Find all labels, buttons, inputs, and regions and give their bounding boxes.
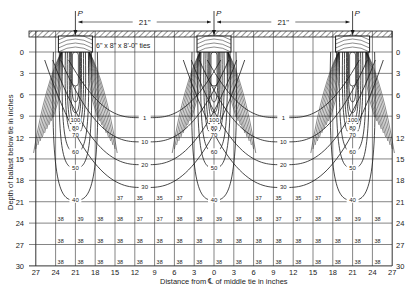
y-tick-label-right: 9 <box>396 112 400 121</box>
stress-line <box>38 52 61 145</box>
spacing-label: 21" <box>277 18 289 27</box>
x-tick-label: 12 <box>289 268 297 277</box>
x-tick-label: 18 <box>91 268 99 277</box>
contour-label: 30 <box>280 184 287 190</box>
pressure-value: 38 <box>275 259 281 265</box>
pressure-value: 38 <box>137 259 143 265</box>
pressure-value: 35 <box>295 195 301 201</box>
stress-line <box>177 52 200 145</box>
contour-label: 20 <box>141 162 148 168</box>
stress-line <box>367 52 393 149</box>
x-tick-label: 3 <box>232 268 236 277</box>
pressure-value: 37 <box>157 216 163 222</box>
y-tick-label-left: 3 <box>20 69 24 78</box>
pressure-value: 38 <box>176 216 182 222</box>
load-label: P <box>77 9 83 18</box>
stress-line <box>36 52 62 149</box>
load-label: P <box>216 9 222 18</box>
pressure-value: 38 <box>335 216 341 222</box>
x-tick-label: 24 <box>51 268 59 277</box>
x-tick-label: 15 <box>309 268 317 277</box>
pressure-value: 38 <box>196 259 202 265</box>
pressure-value: 38 <box>117 216 123 222</box>
contour-label: 30 <box>141 184 148 190</box>
pressure-value: 37 <box>117 195 123 201</box>
x-tick-label: 21 <box>71 268 79 277</box>
ballast-pressure-diagram: 1008070605040100807060504010080706050401… <box>0 0 420 290</box>
y-tick-label-right: 3 <box>396 69 400 78</box>
y-tick-label-left: 6 <box>20 91 24 100</box>
stress-line <box>228 52 251 145</box>
contour-label: 60 <box>211 149 218 155</box>
y-tick-label-right: 12 <box>396 134 404 143</box>
dimension-arrow-icon <box>207 21 211 24</box>
pressure-value: 37 <box>256 195 262 201</box>
contour-label: 60 <box>349 149 356 155</box>
pressure-value: 38 <box>295 259 301 265</box>
stress-line <box>315 52 338 145</box>
load-label: P <box>355 9 361 18</box>
y-tick-label-left: 24 <box>16 219 24 228</box>
y-tick-label-left: 0 <box>20 48 24 57</box>
pressure-value: 38 <box>355 259 361 265</box>
contour-label: 50 <box>72 165 79 171</box>
dimension-arrow-icon <box>346 21 350 24</box>
x-tick-label: 21 <box>348 268 356 277</box>
pressure-value: 38 <box>196 238 202 244</box>
pressure-value: 38 <box>355 238 361 244</box>
y-tick-label-left: 30 <box>16 262 24 271</box>
pressure-value: 38 <box>374 238 380 244</box>
pressure-value: 38 <box>97 216 103 222</box>
x-tick-label: 6 <box>252 268 256 277</box>
y-tick-label-left: 15 <box>16 155 24 164</box>
y-tick-label-left: 27 <box>16 241 24 250</box>
pressure-value: 38 <box>315 238 321 244</box>
pressure-value: 39 <box>355 216 361 222</box>
pressure-value: 38 <box>58 259 64 265</box>
pressure-value: 38 <box>256 259 262 265</box>
contour-label: 60 <box>72 149 79 155</box>
pressure-value: 38 <box>256 238 262 244</box>
x-tick-label: 27 <box>32 268 40 277</box>
pressure-values: 1008070605040100807060504010080706050401… <box>58 114 381 265</box>
dimension-arrow-icon <box>78 21 82 24</box>
contour-label: 40 <box>72 197 79 203</box>
contour-label: 80 <box>72 125 79 131</box>
pressure-value: 38 <box>117 259 123 265</box>
contour-label: 70 <box>72 132 79 138</box>
pressure-value: 38 <box>374 259 380 265</box>
y-tick-label-right: 6 <box>396 91 400 100</box>
x-tick-label: 12 <box>131 268 139 277</box>
pressure-value: 39 <box>216 216 222 222</box>
dimension-arrow-icon <box>217 21 221 24</box>
pressure-value: 37 <box>275 216 281 222</box>
pressure-value: 38 <box>256 216 262 222</box>
pressure-value: 38 <box>176 238 182 244</box>
contour-label: 100 <box>70 117 81 123</box>
y-tick-label-right: 30 <box>396 262 404 271</box>
pressure-value: 38 <box>58 238 64 244</box>
x-tick-label: 18 <box>329 268 337 277</box>
pressure-value: 35 <box>275 195 281 201</box>
y-tick-label-left: 18 <box>16 176 24 185</box>
pressure-value: 38 <box>176 259 182 265</box>
pressure-value: 38 <box>374 216 380 222</box>
spacing-label: 21" <box>139 18 151 27</box>
x-tick-label: 6 <box>172 268 176 277</box>
pressure-value: 38 <box>236 216 242 222</box>
contour-label: 100 <box>348 117 359 123</box>
pressure-value: 37 <box>315 195 321 201</box>
pressure-value: 38 <box>58 216 64 222</box>
pressure-value: 38 <box>216 259 222 265</box>
y-tick-label-right: 21 <box>396 198 404 207</box>
pressure-value: 38 <box>157 238 163 244</box>
y-axis-label: Depth of ballast below tie in inches <box>6 94 15 210</box>
y-tick-label-left: 12 <box>16 134 24 143</box>
contour-label: 80 <box>211 125 218 131</box>
x-tick-label: 24 <box>368 268 376 277</box>
contour-label: 40 <box>349 197 356 203</box>
y-tick-label-right: 24 <box>396 219 404 228</box>
pressure-value: 38 <box>157 259 163 265</box>
contour-label: 10 <box>141 139 148 145</box>
x-tick-label: 9 <box>271 268 275 277</box>
